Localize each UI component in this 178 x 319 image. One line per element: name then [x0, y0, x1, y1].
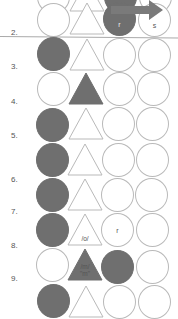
row5-circle-1 — [36, 108, 69, 142]
row6-circle-4 — [136, 143, 169, 177]
row-label-5: 5. — [11, 131, 18, 140]
row8-circle-4 — [136, 213, 169, 247]
row5-triangle — [68, 107, 104, 140]
row-label-9: 9. — [11, 274, 18, 283]
row8-circle-3: r — [101, 213, 134, 247]
row-label-4: 4. — [11, 97, 18, 106]
row4-triangle-filled — [68, 72, 104, 105]
row2-triangle — [69, 2, 105, 35]
row9-triangle-text-1: /m/ — [67, 263, 103, 270]
row4-circle-3 — [103, 72, 136, 106]
row3-circle-3 — [103, 38, 136, 72]
row-label-7: 7. — [11, 207, 18, 216]
row7-circle-1 — [36, 178, 69, 212]
row4-circle-1 — [37, 72, 70, 106]
row2-circle-1 — [37, 3, 70, 37]
row6-triangle — [67, 143, 103, 176]
row7-circle-4 — [135, 178, 168, 212]
row-label-6: 6. — [11, 175, 18, 184]
row9-circle-3 — [101, 250, 134, 284]
row10-triangle — [68, 285, 104, 318]
row10-circle-4 — [138, 285, 171, 319]
row8-circle-1 — [36, 213, 69, 247]
arrow-right-icon — [111, 0, 163, 22]
row8-triangle: /o/ — [67, 213, 103, 246]
row6-circle-3 — [102, 143, 135, 177]
row6-circle-1 — [36, 143, 69, 177]
row-label-3: 3. — [11, 62, 18, 71]
row9-circle-1 — [36, 248, 69, 282]
row5-circle-3 — [102, 107, 135, 141]
row7-triangle — [67, 178, 103, 211]
row9-triangle-filled: /m/ "m" — [67, 248, 103, 281]
row3-circle-1 — [37, 37, 70, 71]
row3-triangle — [69, 38, 105, 71]
row7-circle-3 — [101, 178, 134, 212]
row8-triangle-text: /o/ — [67, 235, 103, 242]
row-label-8: 8. — [11, 241, 18, 250]
row10-circle-1 — [37, 284, 70, 318]
row4-circle-4 — [137, 72, 170, 106]
row8-circle-3-text: r — [116, 227, 118, 234]
row9-triangle-text-2: "m" — [67, 270, 103, 277]
row5-circle-4 — [136, 107, 169, 141]
row3-circle-4 — [138, 38, 171, 72]
row2-circle-4-text: s — [153, 22, 157, 29]
row9-circle-4 — [136, 250, 169, 284]
row10-circle-3 — [103, 285, 136, 319]
